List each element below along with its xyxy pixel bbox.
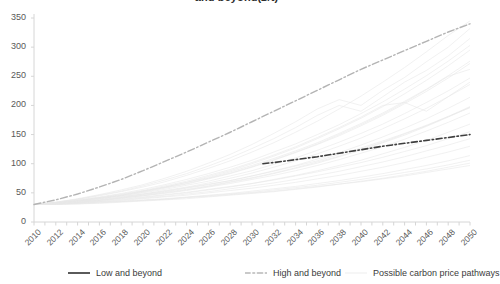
y-tick-label-0: 0 bbox=[0, 217, 26, 226]
legend-low-and-beyond-label: Low and beyond bbox=[96, 268, 162, 278]
low-and-beyond-line bbox=[263, 135, 470, 164]
y-tick-label-150: 150 bbox=[0, 130, 26, 139]
pathway-line-23 bbox=[34, 50, 470, 204]
legend-low-and-beyond[interactable]: Low and beyond bbox=[68, 266, 162, 280]
y-tick-label-300: 300 bbox=[0, 42, 26, 51]
y-tick-label-350: 350 bbox=[0, 13, 26, 22]
legend-possible-pathways-key bbox=[345, 268, 367, 278]
y-tick-label-50: 50 bbox=[0, 188, 26, 197]
y-tick-label-200: 200 bbox=[0, 100, 26, 109]
y-tick-label-250: 250 bbox=[0, 71, 26, 80]
pathway-line-11 bbox=[34, 45, 470, 204]
legend-high-and-beyond[interactable]: High and beyond bbox=[245, 266, 341, 280]
pathway-line-21 bbox=[34, 69, 470, 204]
y-tick-label-100: 100 bbox=[0, 159, 26, 168]
legend-low-and-beyond-key bbox=[68, 268, 90, 278]
chart-legend: Low and beyondHigh and beyondPossible ca… bbox=[0, 266, 473, 282]
legend-possible-pathways-label: Possible carbon price pathways bbox=[373, 268, 500, 278]
legend-high-and-beyond-key bbox=[245, 268, 267, 278]
legend-possible-pathways[interactable]: Possible carbon price pathways bbox=[345, 266, 500, 280]
legend-high-and-beyond-label: High and beyond bbox=[273, 268, 341, 278]
pathway-line-1 bbox=[34, 21, 470, 205]
pathway-line-6 bbox=[34, 61, 470, 204]
